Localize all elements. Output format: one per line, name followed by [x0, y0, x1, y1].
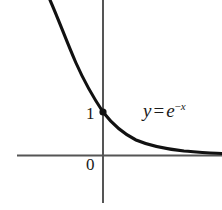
plot-canvas — [0, 0, 222, 210]
equation-base-e: e — [166, 100, 174, 121]
equation-exponent: −x — [175, 100, 186, 112]
curve-equation-label: y=e−x — [143, 101, 186, 120]
equation-equals-sign: = — [151, 100, 166, 121]
origin-label-0: 0 — [86, 156, 95, 173]
exponential-curve — [50, 0, 222, 154]
y-axis-tick-label-1: 1 — [86, 105, 95, 122]
y-intercept-marker — [99, 108, 106, 115]
equation-exponent-variable-x: x — [181, 100, 186, 112]
exponential-decay-figure: 1 0 y=e−x — [0, 0, 222, 210]
